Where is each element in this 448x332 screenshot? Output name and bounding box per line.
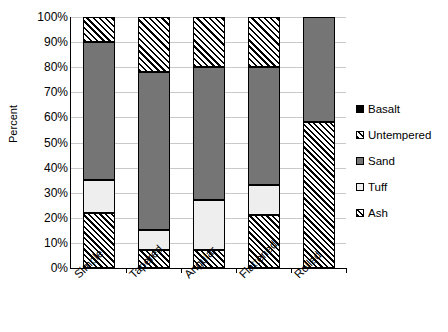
y-axis-tick-labels: 0%10%20%30%40%50%60%70%80%90%100% (12, 0, 68, 332)
legend-item: Untempered (356, 122, 446, 148)
legend-swatch-icon (356, 157, 364, 165)
bar-segment-untempered (138, 17, 170, 72)
legend-swatch-icon (356, 105, 364, 113)
y-tick-label: 10% (12, 237, 68, 249)
y-tick-label: 30% (12, 187, 68, 199)
bar-segment-sand (193, 67, 225, 200)
bar-column (248, 17, 280, 268)
y-tick-label: 60% (12, 111, 68, 123)
bar-segment-untempered (193, 17, 225, 67)
legend-item: Sand (356, 148, 446, 174)
legend-label: Sand (368, 155, 395, 167)
bar-column (138, 17, 170, 268)
legend-label: Basalt (368, 103, 400, 115)
y-tick-label: 20% (12, 212, 68, 224)
plot-area (70, 17, 346, 269)
y-tick-label: 50% (12, 137, 68, 149)
bar-segment-untempered (248, 17, 280, 67)
y-tick-label: 0% (12, 262, 68, 274)
legend-label: Ash (368, 207, 388, 219)
legend-item: Tuff (356, 174, 446, 200)
legend-swatch-icon (356, 183, 364, 191)
y-tick-label: 80% (12, 61, 68, 73)
legend: BasaltUntemperedSandTuffAsh (356, 96, 446, 226)
y-tick-label: 70% (12, 86, 68, 98)
bar-column (193, 17, 225, 268)
legend-label: Untempered (368, 129, 431, 141)
legend-item: Basalt (356, 96, 446, 122)
bar-segment-tuff (248, 185, 280, 215)
y-tick-label: 90% (12, 36, 68, 48)
bar-segment-tuff (83, 180, 115, 213)
legend-item: Ash (356, 200, 446, 226)
x-axis-tick-labels: SimpleTaperedAngularFlattenedRolled (70, 272, 345, 330)
bar-segment-untempered (83, 17, 115, 42)
y-tick-label: 40% (12, 162, 68, 174)
y-tick-label: 100% (12, 11, 68, 23)
bar-segment-sand (83, 42, 115, 180)
bar-segment-sand (303, 17, 335, 122)
bar-column (303, 17, 335, 268)
stacked-bar-chart: Percent 0%10%20%30%40%50%60%70%80%90%100… (0, 0, 448, 332)
x-tick-mark (346, 268, 347, 273)
bar-segment-sand (248, 67, 280, 185)
bar-segment-tuff (193, 200, 225, 250)
bar-column (83, 17, 115, 268)
bar-segment-sand (138, 72, 170, 230)
legend-swatch-icon (356, 209, 364, 217)
legend-label: Tuff (368, 181, 387, 193)
legend-swatch-icon (356, 131, 364, 139)
bar-segment-ash (303, 122, 335, 268)
